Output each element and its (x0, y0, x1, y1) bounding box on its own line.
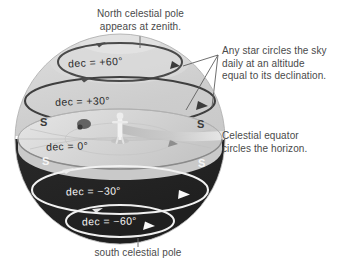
marker-s-left-lower: S (42, 155, 50, 167)
celestial-sphere-figure: dec = +60° dec = +30° dec = 0° dec = −30… (0, 0, 345, 270)
marker-s-right-upper: S (197, 118, 205, 130)
caption-south-celestial-pole: south celestial pole (58, 247, 218, 260)
caption-star-circles-sky: Any star circles the sky daily at an alt… (222, 45, 344, 83)
marker-s-right-lower: S (198, 157, 206, 169)
caption-celestial-equator: Celestial equator circles the horizon. (222, 130, 340, 155)
marker-s-left-upper: S (40, 116, 48, 128)
caption-north-celestial-pole: North celestial pole appears at zenith. (78, 8, 203, 33)
